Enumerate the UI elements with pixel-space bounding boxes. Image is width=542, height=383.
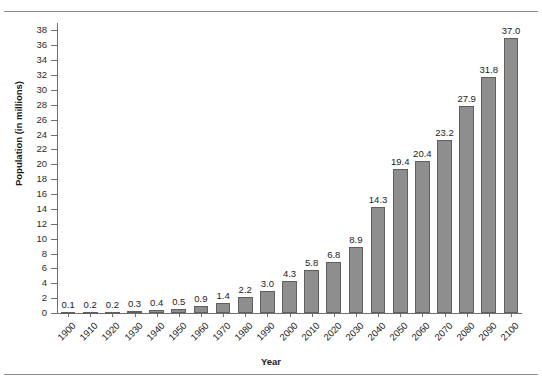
y-axis-tick: [51, 30, 57, 31]
x-axis-tick: [201, 313, 202, 317]
y-axis-tick: [51, 90, 57, 91]
x-axis-tick: [290, 313, 291, 317]
y-axis-tick-label: 12: [22, 218, 47, 229]
bar: [459, 106, 474, 313]
x-axis-tick: [489, 313, 490, 317]
y-axis-tick: [51, 75, 57, 76]
bar: [504, 38, 519, 313]
bar: [260, 291, 275, 313]
y-axis-tick: [51, 194, 57, 195]
bar-value-label: 20.4: [406, 148, 438, 159]
y-axis-tick: [51, 224, 57, 225]
bar: [282, 281, 297, 313]
x-axis-tick: [179, 313, 180, 317]
y-axis-tick: [51, 45, 57, 46]
bar-value-label: 31.8: [473, 64, 505, 75]
x-axis-tick: [334, 313, 335, 317]
bar-value-label: 27.9: [451, 93, 483, 104]
y-axis-tick: [51, 254, 57, 255]
y-axis-tick-label: 24: [22, 129, 47, 140]
y-axis-tick-label: 8: [22, 248, 47, 259]
x-axis-tick: [400, 313, 401, 317]
bar: [216, 303, 231, 313]
y-axis-tick-label: 26: [22, 114, 47, 125]
y-axis-tick-label: 14: [22, 203, 47, 214]
x-axis-tick: [445, 313, 446, 317]
x-axis-tick: [112, 313, 113, 317]
x-axis-title: Year: [0, 356, 542, 367]
y-axis-tick-label: 22: [22, 143, 47, 154]
bar: [481, 77, 496, 313]
x-axis-tick: [378, 313, 379, 317]
y-axis-tick-label: 2: [22, 292, 47, 303]
bar: [349, 247, 364, 313]
x-axis-tick: [422, 313, 423, 317]
bar-value-label: 23.2: [429, 127, 461, 138]
x-axis-tick: [511, 313, 512, 317]
bar-value-label: 37.0: [495, 25, 527, 36]
x-axis-tick: [135, 313, 136, 317]
y-axis-tick: [51, 209, 57, 210]
y-axis-tick-label: 20: [22, 158, 47, 169]
y-axis-tick: [51, 120, 57, 121]
bar-value-label: 8.9: [340, 234, 372, 245]
y-axis-tick-label: 10: [22, 233, 47, 244]
bar: [393, 169, 408, 313]
y-axis-tick: [51, 268, 57, 269]
figure: Population (in millions) Year 0246810121…: [0, 0, 542, 383]
y-axis-tick: [51, 179, 57, 180]
x-axis-tick: [267, 313, 268, 317]
bar: [194, 306, 209, 313]
bar-value-label: 6.8: [318, 249, 350, 260]
x-axis-tick: [312, 313, 313, 317]
y-axis-tick-label: 34: [22, 54, 47, 65]
bar: [304, 270, 319, 313]
y-axis-tick: [51, 283, 57, 284]
bar: [371, 207, 386, 313]
y-axis-tick-label: 38: [22, 24, 47, 35]
y-axis-tick: [51, 149, 57, 150]
y-axis-tick-label: 32: [22, 69, 47, 80]
bar: [238, 297, 253, 313]
y-axis-tick-label: 30: [22, 84, 47, 95]
y-axis-tick-label: 16: [22, 188, 47, 199]
y-axis-tick: [51, 313, 57, 314]
bar: [326, 262, 341, 313]
y-axis-tick-label: 0: [22, 307, 47, 318]
top-divider-rule: [4, 11, 538, 12]
y-axis-tick-label: 28: [22, 99, 47, 110]
y-axis-tick-label: 18: [22, 173, 47, 184]
bar: [415, 161, 430, 313]
y-axis-tick-label: 6: [22, 262, 47, 273]
x-axis-tick: [157, 313, 158, 317]
x-axis-tick: [223, 313, 224, 317]
x-axis-tick: [68, 313, 69, 317]
y-axis-tick: [51, 164, 57, 165]
x-axis-tick: [356, 313, 357, 317]
y-axis-tick: [51, 135, 57, 136]
bar: [437, 140, 452, 313]
y-axis-tick-label: 36: [22, 39, 47, 50]
bar-value-label: 4.3: [274, 268, 306, 279]
y-axis-tick: [51, 239, 57, 240]
bar-value-label: 3.0: [251, 278, 283, 289]
x-axis-tick: [467, 313, 468, 317]
y-axis-tick: [51, 105, 57, 106]
y-axis-tick: [51, 60, 57, 61]
y-axis-tick-label: 4: [22, 277, 47, 288]
x-axis-tick: [90, 313, 91, 317]
bottom-divider-rule: [4, 374, 538, 375]
x-axis-tick: [245, 313, 246, 317]
bar-value-label: 14.3: [362, 194, 394, 205]
